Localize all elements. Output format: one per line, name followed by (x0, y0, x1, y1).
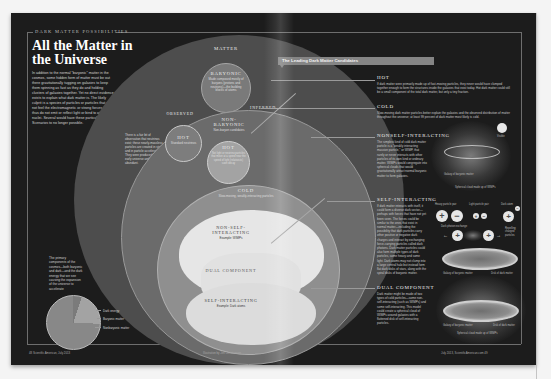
pie-leader-2 (97, 318, 101, 319)
section-si-title: Self-Interacting (377, 197, 437, 202)
hot-observed-desc: Standard neutrinos (169, 142, 198, 146)
light-minus-particle: − (481, 213, 487, 219)
nonbaryonic-label: Non-Baryonic (207, 117, 251, 127)
repel-plus-right: + (483, 230, 494, 241)
cold-label: Cold (216, 188, 276, 193)
pie-leader-3 (95, 327, 101, 328)
dual-label-galaxy: Galaxy of baryonic matter (443, 324, 473, 327)
hot-observed-label: Hot (168, 135, 199, 140)
cold-desc: Slow-moving, weakly-interacting particle… (191, 195, 301, 199)
si-photon-exchange-label: Dark photon exchange (441, 225, 467, 228)
section-nsi-body: The simplest kind of cold dark matter pa… (377, 140, 427, 178)
repel-arrow-left: ← (443, 232, 448, 238)
nsi-label: Non-Self-Interacting (206, 225, 256, 235)
dark-atom-electron: − (515, 206, 520, 211)
page-title: All the Matter in the Universe (32, 39, 142, 67)
leader-si (327, 201, 375, 202)
section-dual-title: Dual Component (377, 285, 434, 290)
hot-desc: Not light or neutrino particles that mov… (211, 152, 246, 165)
nsi-example: Example: WIMPs (206, 237, 256, 241)
pie-legend-baryonic: Baryonic matter (103, 317, 124, 321)
dark-atom-nucleus: + (503, 211, 514, 222)
footer-left: 48 Scientific American, July 2013 (29, 351, 70, 355)
heavy-minus-particle: − (451, 210, 463, 222)
leader-nsi (311, 137, 375, 138)
baryonic-desc: Made composed mostly of baryons (protons… (208, 78, 244, 93)
nsi-label-visible: Visible (497, 135, 505, 138)
heavy-plus-particle: + (436, 210, 448, 222)
repel-arrow-right: → (496, 232, 501, 238)
magazine-spread: Dark Matter Possibilities All the Matter… (11, 13, 536, 365)
si-example: Example: Dark atoms (201, 305, 261, 309)
candidates-banner: The Leading Dark Matter Candidates (278, 57, 434, 65)
top-rule (116, 32, 521, 33)
si-heavy-pair-label: Heavy particle pair (435, 203, 456, 206)
hot-label: Hot (211, 145, 246, 150)
top-rule-left (27, 32, 33, 33)
footer-center: Illustration by Jen Christiansen (203, 351, 241, 355)
nsi-label-cloud: Spherical cloud made up of WIMPs (455, 186, 496, 189)
si-galaxy-disk (442, 248, 518, 270)
matter-label: Matter (206, 46, 246, 51)
si-disk-baryonic-label: Galaxy of baryonic matter (443, 272, 473, 275)
pie-caption: The primary components of the cosmos—bot… (49, 256, 84, 291)
si-dark-atom-label: Dark atom (501, 203, 513, 206)
section-cold-body: Slow-moving dark matter particles better… (377, 111, 512, 119)
leader-dual (311, 288, 375, 289)
pie-leader-1 (96, 310, 101, 311)
baryonic-label: Baryonic (206, 71, 246, 76)
dual-label: Dual Component (196, 268, 266, 273)
si-repelling-label: Repelling charged particles (505, 227, 521, 237)
cosmos-pie-chart (46, 295, 101, 350)
nsi-label-galaxy: Galaxy of baryonic matter (444, 173, 474, 176)
pie-legend-nonbaryonic: Nonbaryonic matter (103, 326, 129, 330)
observed-label: Observed (163, 111, 197, 116)
page-edge (536, 13, 537, 379)
footer-right: July 2013, ScientificAmerican.com 49 (441, 351, 487, 355)
baryonic-galaxy-ring (444, 145, 500, 159)
self-interacting-shape (186, 283, 316, 345)
section-hot-title: Hot (377, 75, 390, 80)
section-hot-body: If dark matter were primarily made up of… (377, 82, 512, 95)
dual-label-disk: Disk of dark matter (493, 324, 515, 327)
dual-label-cloud: Spherical cloud made up of WIMPs (457, 332, 498, 335)
dark-photon-glow (463, 230, 483, 241)
left-rule (27, 32, 28, 344)
visible-satellite (497, 123, 507, 133)
section-si-body: If dark matter interacts with itself, it… (377, 204, 427, 275)
leader-hot (271, 80, 375, 81)
nonbaryonic-desc: Non-baryon candidates (207, 129, 251, 133)
light-plus-particle: + (473, 213, 479, 219)
si-disk-dark-label: Disk of dark matter (491, 272, 513, 275)
si-light-pair-label: Light particle pair (469, 203, 489, 206)
pie-legend-dark-energy: Dark energy (103, 309, 119, 313)
dual-galaxy-disk (443, 300, 519, 322)
section-cold-title: Cold (377, 104, 394, 109)
section-dual-body: Dark matter might be made of two types o… (377, 292, 427, 326)
si-label: Self-Interacting (196, 298, 266, 303)
repel-plus-left: + (452, 230, 463, 241)
kicker: Dark Matter Possibilities (35, 29, 129, 34)
